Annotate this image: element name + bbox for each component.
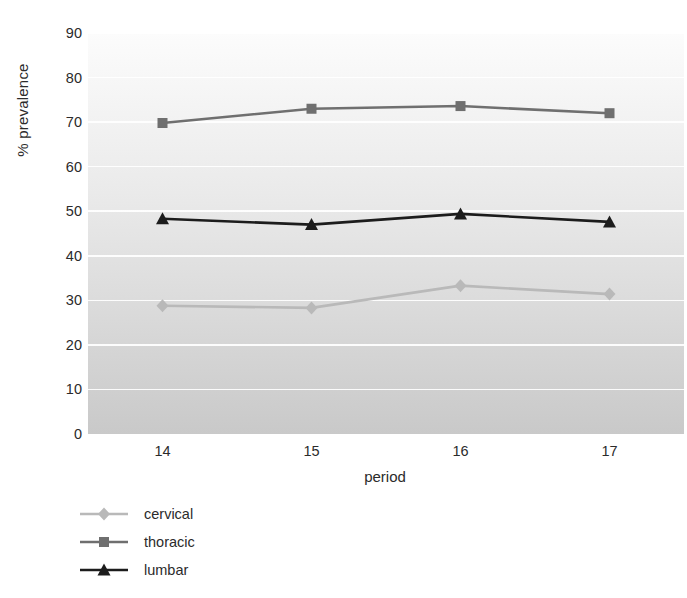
legend-label: lumbar bbox=[144, 562, 188, 578]
y-tick-label: 40 bbox=[42, 248, 82, 264]
y-tick-label: 30 bbox=[42, 292, 82, 308]
y-tick-label: 0 bbox=[42, 426, 82, 442]
y-tick-label: 10 bbox=[42, 381, 82, 397]
legend-item-cervical[interactable]: cervical bbox=[78, 500, 338, 528]
x-axis-title: period bbox=[85, 468, 685, 485]
series-line bbox=[163, 286, 610, 308]
line-chart: % prevalence 0102030405060708090 1415161… bbox=[0, 0, 687, 598]
y-tick-label: 70 bbox=[42, 114, 82, 130]
y-axis-title: % prevalence bbox=[14, 30, 31, 190]
data-point-marker bbox=[604, 288, 616, 301]
legend-label: cervical bbox=[144, 506, 193, 522]
legend-item-thoracic[interactable]: thoracic bbox=[78, 528, 338, 556]
data-point-marker bbox=[158, 118, 168, 128]
y-tick-label: 80 bbox=[42, 70, 82, 86]
series-thoracic bbox=[158, 101, 615, 128]
series-lumbar bbox=[156, 207, 616, 230]
series-line bbox=[163, 106, 610, 123]
data-point-marker bbox=[456, 101, 466, 111]
data-point-marker bbox=[99, 537, 109, 547]
y-tick-label: 90 bbox=[42, 25, 82, 41]
data-point-marker bbox=[307, 104, 317, 114]
legend-label: thoracic bbox=[144, 534, 195, 550]
y-tick-label: 20 bbox=[42, 337, 82, 353]
y-tick-label: 60 bbox=[42, 159, 82, 175]
x-tick-label: 14 bbox=[133, 443, 193, 459]
x-tick-label: 17 bbox=[580, 443, 640, 459]
plot-area bbox=[88, 33, 684, 434]
data-point-marker bbox=[455, 279, 467, 292]
square-marker-icon bbox=[78, 533, 130, 551]
legend-item-lumbar[interactable]: lumbar bbox=[78, 556, 338, 584]
x-tick-label: 15 bbox=[282, 443, 342, 459]
data-point-marker bbox=[605, 108, 615, 118]
data-point-marker bbox=[157, 299, 169, 312]
data-point-marker bbox=[306, 301, 318, 314]
series-group bbox=[88, 33, 684, 434]
x-tick-label: 16 bbox=[431, 443, 491, 459]
series-cervical bbox=[157, 279, 616, 314]
chart-legend: cervicalthoraciclumbar bbox=[78, 500, 338, 584]
series-line bbox=[163, 214, 610, 225]
diamond-marker-icon bbox=[78, 505, 130, 523]
y-axis-tick-labels: 0102030405060708090 bbox=[38, 0, 82, 598]
triangle-marker-icon bbox=[78, 561, 130, 579]
y-tick-label: 50 bbox=[42, 203, 82, 219]
data-point-marker bbox=[98, 508, 110, 521]
